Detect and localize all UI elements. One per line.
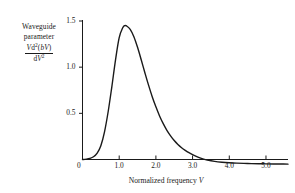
y-tick-label-0.5: 0.5 [54,109,76,117]
x-axis-title-symbol: V [199,176,204,185]
data-curve [83,25,289,164]
y-tick-label-1.5: 1.5 [54,17,76,25]
waveguide-dispersion-chart: Waveguide parameter Vd2(bV) dV2 0.51.01.… [0,0,295,193]
y-tick-label-1.0: 1.0 [54,63,76,71]
x-tick-label-4.0: 4.0 [220,162,238,170]
x-tick-marks [119,156,266,160]
x-axis-title-text: Normalized frequency [129,176,197,185]
x-axis-title: Normalized frequency V [96,176,236,185]
y-tick-marks [79,21,83,113]
origin-label: 0 [77,162,81,170]
x-tick-label-1.0: 1.0 [110,162,128,170]
x-tick-label-2.0: 2.0 [147,162,165,170]
x-tick-label-5.0: 5.0 [257,162,275,170]
x-tick-label-3.0: 3.0 [184,162,202,170]
